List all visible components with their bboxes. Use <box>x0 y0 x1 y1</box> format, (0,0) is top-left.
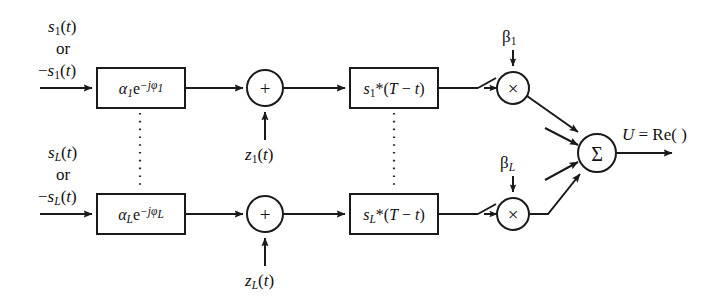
branch1-adder-symbol: + <box>260 78 271 99</box>
branchL-to-summation-wire <box>529 174 580 214</box>
block-diagram-figure: α1e−jφ1 s1*(T − t) αLe−jφL sL*(T − t) + … <box>0 0 722 297</box>
branch1-weight-label: β1 <box>502 27 517 47</box>
branch1-noise-label: z1(t) <box>244 145 273 165</box>
branchL-input-negative-label: −sL(t) <box>38 187 77 207</box>
branchL-input-or-label: or <box>56 165 71 184</box>
branch1-to-summation-wire <box>527 96 578 132</box>
branch1-multiplier-symbol: × <box>508 78 519 99</box>
branch1-input-positive-label: s1(t) <box>48 17 76 37</box>
branch1-input-negative-label: −s1(t) <box>38 61 76 81</box>
summation-extra-input-upper <box>545 128 578 145</box>
branchL-switch-blade <box>478 204 496 214</box>
branch1-input-or-label: or <box>56 39 71 58</box>
branchL-input-positive-label: sL(t) <box>48 143 77 163</box>
branchL-adder-symbol: + <box>260 204 271 225</box>
diagram-canvas: α1e−jφ1 s1*(T − t) αLe−jφL sL*(T − t) + … <box>0 0 722 297</box>
branchL-noise-label: zL(t) <box>244 271 274 291</box>
summation-symbol: Σ <box>591 143 603 165</box>
branchL-multiplier-symbol: × <box>508 204 519 225</box>
summation-extra-input-lower <box>545 162 578 180</box>
branch1-switch-blade <box>478 78 496 88</box>
output-label: U = Re( ) <box>622 125 687 144</box>
branchL-weight-label: βL <box>500 153 515 173</box>
